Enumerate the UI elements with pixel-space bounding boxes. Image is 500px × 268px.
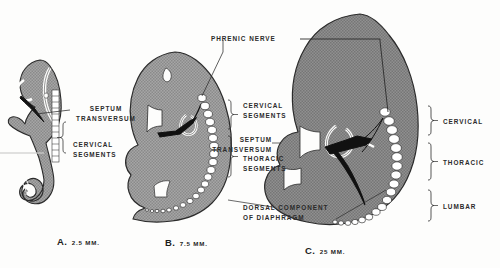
label-dorsal-component-line2: OF DIAPHRAGM [243, 213, 328, 223]
label-dorsal-component-diaphragm: DORSAL COMPONENT OF DIAPHRAGM [243, 203, 328, 222]
label-thoracic-segments-b-line1: THORACIC [243, 154, 286, 164]
label-cervical-segments-a-line1: CERVICAL [73, 140, 116, 150]
label-cervical-segments-b: CERVICAL SEGMENTS [243, 101, 286, 120]
label-septum-transversum-a: SEPTUM TRANSVERSUM [73, 104, 139, 123]
bracket-thoracic-c [428, 143, 434, 180]
panel-c-embryo [265, 14, 438, 225]
label-thoracic-segments-b-line2: SEGMENTS [243, 164, 286, 174]
caption-b-size: 7.5 MM. [180, 240, 208, 247]
bracket-lumbar-c [428, 190, 434, 221]
embryo-a-somite-column [52, 90, 59, 162]
label-cervical-segments-b-line2: SEGMENTS [243, 111, 286, 121]
embryo-a-otic-pit [44, 93, 48, 98]
label-dorsal-component-line1: DORSAL COMPONENT [243, 203, 328, 213]
panel-a-embryo [0, 60, 70, 204]
caption-panel-c: C. 25 MM. [305, 240, 345, 258]
caption-b-letter: B. [165, 237, 175, 248]
label-thoracic-segments-b: THORACIC SEGMENTS [243, 154, 286, 173]
label-cervical-segments-a: CERVICAL SEGMENTS [73, 140, 116, 159]
label-cervical-segments-b-line1: CERVICAL [243, 101, 286, 111]
bracket-cervical-c [428, 106, 434, 135]
caption-a-size: 2.5 MM. [72, 239, 100, 246]
label-cervical-c: CERVICAL [443, 117, 483, 127]
label-septum-transversum-b-line1: SEPTUM [205, 135, 272, 145]
label-septum-transversum-a-line1: SEPTUM [73, 104, 139, 114]
caption-a-letter: A. [57, 236, 67, 247]
caption-panel-a: A. 2.5 MM. [57, 231, 100, 249]
label-cervical-segments-a-line2: SEGMENTS [73, 150, 116, 160]
caption-panel-b: B. 7.5 MM. [165, 232, 208, 250]
caption-c-size: 25 MM. [320, 248, 345, 255]
label-septum-transversum-b: SEPTUM TRANSVERSUM [205, 135, 272, 154]
label-septum-transversum-a-line2: TRANSVERSUM [73, 114, 139, 124]
label-phrenic-nerve: PHRENIC NERVE [211, 34, 276, 44]
bracket-cervical-a [60, 122, 66, 153]
label-lumbar-c: LUMBAR [443, 202, 476, 212]
label-septum-transversum-b-line2: TRANSVERSUM [205, 145, 272, 155]
embryology-diaphragm-figure: PHRENIC NERVE SEPTUM TRANSVERSUM CERVICA… [0, 0, 500, 268]
caption-c-letter: C. [305, 245, 315, 256]
label-thoracic-c: THORACIC [443, 158, 484, 168]
